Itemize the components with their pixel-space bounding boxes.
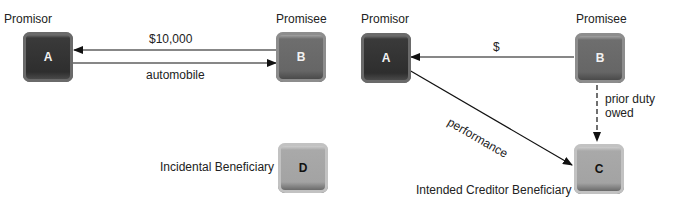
node-b-right-letter: B [596, 51, 605, 65]
edge-label-dollar: $ [493, 40, 500, 54]
node-a-right-letter: A [382, 51, 391, 65]
edge-label-owed: owed [605, 106, 634, 120]
node-a-left-letter: A [44, 50, 53, 64]
node-d[interactable]: D [278, 143, 328, 193]
node-c-letter: C [595, 162, 604, 176]
node-b-right[interactable]: B [575, 33, 625, 83]
node-b-left[interactable]: B [276, 32, 326, 82]
node-a-left[interactable]: A [23, 32, 73, 82]
incidental-beneficiary-label: Incidental Beneficiary [160, 160, 274, 174]
node-b-left-letter: B [297, 50, 306, 64]
edge-label-10000: $10,000 [149, 32, 192, 46]
edge-label-automobile: automobile [146, 68, 205, 82]
promisor-label-right: Promisor [361, 12, 409, 26]
node-a-right[interactable]: A [361, 33, 411, 83]
node-c[interactable]: C [574, 144, 624, 194]
promisee-label-right: Promisee [576, 12, 627, 26]
intended-creditor-beneficiary-label: Intended Creditor Beneficiary [416, 183, 571, 197]
node-d-letter: D [299, 161, 308, 175]
edge-label-prior-duty: prior duty [605, 92, 655, 106]
promisee-label-left: Promisee [276, 12, 327, 26]
promisor-label-left: Promisor [4, 12, 52, 26]
